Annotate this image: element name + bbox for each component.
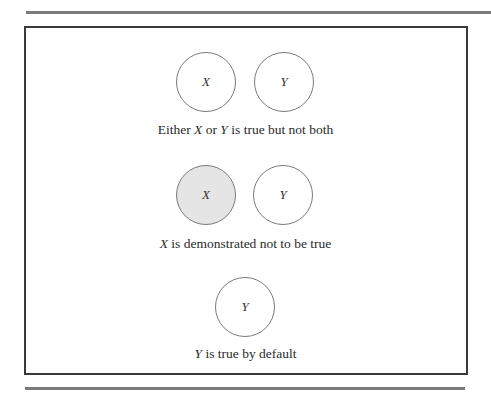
caption-panel-1: Either X or Y is true but not both [0,122,491,138]
caption-text: is demonstrated not to be true [168,236,331,251]
caption-variable: Y [195,346,203,361]
caption-panel-3: Y is true by default [0,346,491,362]
circle-y-panel-3: Y [215,277,275,337]
circle-x-panel-1: X [176,52,236,112]
bottom-rule [25,387,465,390]
caption-panel-2: X is demonstrated not to be true [0,236,491,252]
circle-label: Y [241,299,248,315]
circle-label: X [202,74,210,90]
circle-x-shaded-panel-2: X [176,165,236,225]
circle-y-panel-1: Y [254,52,314,112]
caption-text: is true by default [202,346,296,361]
circle-label: Y [280,74,287,90]
circle-label: Y [279,187,286,203]
caption-text: is true but not both [228,122,333,137]
top-rule [26,11,491,14]
circle-y-panel-2: Y [253,165,313,225]
caption-variable: Y [220,122,228,137]
caption-text: Either [158,122,194,137]
caption-text: or [202,122,220,137]
caption-variable: X [160,236,168,251]
circle-label: X [202,187,210,203]
